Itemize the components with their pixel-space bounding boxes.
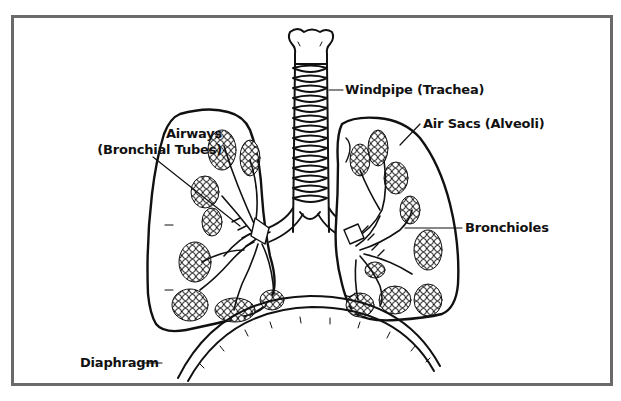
larynx: [289, 29, 333, 64]
label-bronchioles: Bronchioles: [465, 220, 549, 236]
right-lung: [336, 118, 459, 321]
label-air-sacs: Air Sacs (Alveoli): [423, 116, 545, 132]
lungs-illustration: [0, 0, 621, 401]
label-windpipe: Windpipe (Trachea): [345, 82, 484, 98]
label-airways-line1: Airways: [80, 126, 222, 142]
label-airways: Airways (Bronchial Tubes): [80, 126, 222, 158]
label-diaphragm: Diaphragm: [80, 355, 159, 371]
label-airways-line2: (Bronchial Tubes): [80, 142, 222, 158]
